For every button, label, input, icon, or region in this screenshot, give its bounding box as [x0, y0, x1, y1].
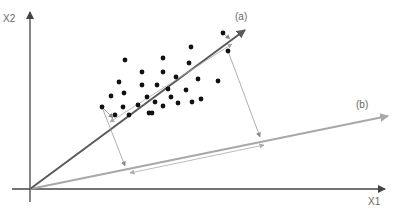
x1-axis-label: X1	[368, 196, 380, 207]
data-point	[140, 70, 145, 75]
data-point	[113, 113, 118, 118]
data-point	[155, 83, 160, 88]
data-point	[123, 58, 128, 63]
data-point	[216, 79, 221, 84]
data-point	[189, 45, 194, 50]
data-point	[109, 94, 114, 99]
data-point	[176, 101, 181, 106]
spread-b-arrow	[130, 145, 264, 173]
data-point	[199, 97, 204, 102]
pca-diagram	[0, 0, 396, 219]
data-point	[184, 88, 189, 93]
data-point	[226, 49, 231, 54]
data-point	[166, 87, 171, 92]
data-point	[161, 56, 166, 61]
x2-axis-label: X2	[3, 13, 15, 24]
data-point	[127, 113, 132, 118]
data-point	[117, 80, 122, 85]
data-point	[187, 61, 192, 66]
data-point	[174, 75, 179, 80]
data-point	[145, 95, 150, 100]
data-point	[153, 100, 158, 105]
data-point	[169, 95, 174, 100]
axis-a-label: (a)	[235, 11, 247, 22]
data-point	[150, 111, 155, 116]
data-point	[121, 105, 126, 110]
data-point	[190, 100, 195, 105]
data-points	[100, 31, 231, 118]
data-point	[136, 103, 141, 108]
data-point	[221, 31, 226, 36]
projection-line	[228, 51, 260, 137]
data-point	[196, 77, 201, 82]
data-point	[161, 104, 166, 109]
data-point	[100, 105, 105, 110]
data-point	[161, 70, 166, 75]
data-point	[140, 83, 145, 88]
axis-b	[30, 116, 388, 189]
axis-b-label: (b)	[356, 99, 368, 110]
axis-a	[30, 30, 245, 189]
data-point	[122, 91, 127, 96]
spread-a-arrow	[110, 44, 232, 122]
